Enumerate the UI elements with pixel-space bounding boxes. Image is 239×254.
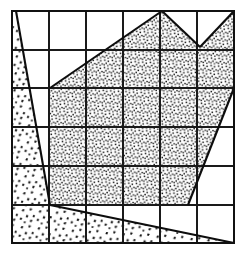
stippled-region-figure	[0, 0, 239, 254]
figure-root	[0, 0, 239, 254]
